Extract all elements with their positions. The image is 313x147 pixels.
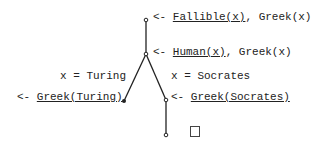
node-turing-label: <- Greek(Turing) [17,91,123,103]
node-root-label: <- Fallible(x), Greek(x) [153,11,311,23]
selected-literal: Greek(Turing) [37,91,123,103]
selected-literal: Human(x) [173,46,226,58]
edge-label-right: x = Socrates [171,70,250,82]
arrow: <- [171,91,184,103]
remaining-literals: , Greek(x) [226,46,292,58]
empty-clause-icon [190,126,200,137]
node-socrates-label: <- Greek(Socrates) [171,91,290,103]
arrow: <- [153,46,166,58]
selected-literal: Greek(Socrates) [191,91,290,103]
arrow: <- [153,11,166,23]
edge-label-left: x = Turing [60,70,126,82]
selected-literal: Fallible(x) [173,11,246,23]
arrow: <- [17,91,30,103]
node-human-label: <- Human(x), Greek(x) [153,46,292,58]
remaining-literals: , Greek(x) [245,11,311,23]
